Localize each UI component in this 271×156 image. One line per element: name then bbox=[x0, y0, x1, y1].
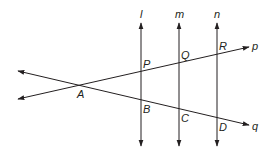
line-p bbox=[18, 47, 249, 99]
point-p-label: P bbox=[143, 58, 151, 70]
label-m: m bbox=[175, 8, 184, 20]
label-n: n bbox=[214, 8, 220, 20]
label-q: q bbox=[252, 120, 259, 132]
point-d-label: D bbox=[219, 121, 227, 133]
point-a-label: A bbox=[76, 88, 84, 100]
point-q-label: Q bbox=[181, 49, 190, 61]
point-b-label: B bbox=[143, 103, 150, 115]
point-c-label: C bbox=[181, 112, 189, 124]
line-q bbox=[18, 71, 249, 125]
point-r-label: R bbox=[219, 40, 227, 52]
label-l: l bbox=[140, 8, 143, 20]
label-p: p bbox=[251, 40, 258, 52]
geometry-diagram: l m n p q A P Q R B C D bbox=[0, 0, 271, 156]
